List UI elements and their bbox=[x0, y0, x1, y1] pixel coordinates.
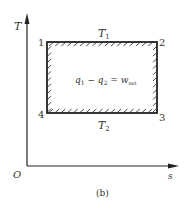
hatch-mark-top bbox=[111, 43, 115, 47]
hatch-mark-top bbox=[142, 43, 146, 47]
hatch-mark-top bbox=[117, 43, 121, 47]
hatch-mark-top bbox=[92, 43, 96, 47]
hatch-mark-right bbox=[153, 90, 157, 94]
hatch-mark-left bbox=[48, 90, 52, 94]
hatch-mark-bottom bbox=[68, 109, 72, 113]
hatch-mark-right bbox=[153, 96, 157, 100]
hatch-mark-bottom bbox=[86, 109, 90, 113]
hatch-mark-top bbox=[55, 43, 59, 47]
equals-sign: = bbox=[107, 75, 120, 85]
hatch-mark-right bbox=[153, 109, 157, 113]
y-axis bbox=[25, 13, 30, 166]
hatch-mark-top bbox=[49, 43, 53, 47]
t1-sub: 1 bbox=[105, 33, 109, 41]
hatch-mark-left bbox=[48, 65, 52, 69]
hatch-mark-top bbox=[80, 43, 84, 47]
hatch-mark-left bbox=[48, 53, 52, 57]
hatch-mark-right bbox=[153, 71, 157, 75]
hatch-mark-right bbox=[153, 84, 157, 88]
figure-caption: (b) bbox=[96, 188, 109, 198]
hatch-mark-bottom bbox=[117, 109, 121, 113]
origin-label: O bbox=[13, 169, 21, 180]
t2-label: T2 bbox=[98, 119, 110, 133]
state-4-label: 4 bbox=[38, 109, 44, 120]
hatch-mark-top bbox=[136, 43, 140, 47]
hatch-mark-bottom bbox=[80, 109, 84, 113]
y-axis-label: T bbox=[14, 20, 23, 33]
y-axis-arrow-icon bbox=[25, 13, 30, 24]
hatch-mark-top bbox=[74, 43, 78, 47]
hatch-mark-top bbox=[99, 43, 103, 47]
hatch-mark-bottom bbox=[142, 109, 146, 113]
hatch-mark-left bbox=[48, 47, 52, 51]
w-sub: net bbox=[128, 80, 136, 86]
hatch-mark-top bbox=[105, 43, 109, 47]
hatch-mark-bottom bbox=[92, 109, 96, 113]
hatch-mark-right bbox=[153, 47, 157, 51]
hatch-mark-top bbox=[148, 43, 152, 47]
hatch-mark-bottom bbox=[130, 109, 134, 113]
hatch-mark-right bbox=[153, 53, 157, 57]
net-work-equation: q1 − q2 = wnet bbox=[75, 75, 137, 86]
ts-diagram: T s O 1 2 3 4 T1 T2 q1 − q2 = wnet (b) bbox=[0, 0, 188, 214]
hatch-mark-bottom bbox=[111, 109, 115, 113]
hatch-mark-bottom bbox=[123, 109, 127, 113]
hatch-mark-right bbox=[153, 78, 157, 82]
hatch-mark-right bbox=[153, 102, 157, 106]
hatch-mark-right bbox=[153, 65, 157, 69]
hatch-mark-bottom bbox=[61, 109, 65, 113]
hatch-mark-left bbox=[48, 102, 52, 106]
hatch-mark-bottom bbox=[105, 109, 109, 113]
hatch-mark-top bbox=[68, 43, 72, 47]
hatch-mark-bottom bbox=[55, 109, 59, 113]
hatch-mark-top bbox=[130, 43, 134, 47]
hatch-mark-left bbox=[48, 59, 52, 63]
t1-label: T1 bbox=[98, 27, 110, 41]
t2-sub: 2 bbox=[105, 125, 109, 133]
x-axis bbox=[27, 164, 179, 169]
hatch-mark-bottom bbox=[136, 109, 140, 113]
hatch-mark-left bbox=[48, 71, 52, 75]
hatch-mark-bottom bbox=[74, 109, 78, 113]
hatch-mark-top bbox=[86, 43, 90, 47]
hatch-mark-left bbox=[48, 84, 52, 88]
state-1-label: 1 bbox=[38, 37, 44, 48]
hatch-mark-right bbox=[153, 59, 157, 63]
hatch-mark-top bbox=[61, 43, 65, 47]
minus-sign: − bbox=[85, 75, 98, 85]
state-2-label: 2 bbox=[159, 37, 165, 48]
hatch-mark-left bbox=[48, 96, 52, 100]
hatch-mark-bottom bbox=[99, 109, 103, 113]
hatch-mark-left bbox=[48, 78, 52, 82]
hatch-mark-top bbox=[123, 43, 127, 47]
x-axis-label: s bbox=[168, 171, 173, 181]
x-axis-arrow-icon bbox=[168, 164, 179, 169]
hatch-mark-bottom bbox=[148, 109, 152, 113]
state-3-label: 3 bbox=[159, 112, 165, 123]
